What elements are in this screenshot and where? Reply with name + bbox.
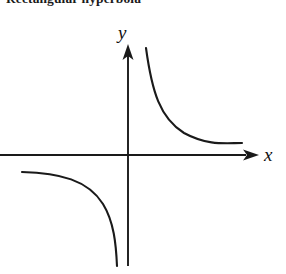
hyperbola-branch-quadrant-3 (22, 172, 117, 266)
x-axis-label: x (264, 145, 272, 164)
hyperbola-plot (0, 0, 286, 274)
axes-group (0, 44, 259, 266)
hyperbola-branches (22, 48, 242, 266)
hyperbola-figure: Rectangular hyperbola y x (0, 0, 286, 274)
y-axis-label: y (118, 23, 126, 42)
hyperbola-branch-quadrant-1 (146, 48, 242, 143)
